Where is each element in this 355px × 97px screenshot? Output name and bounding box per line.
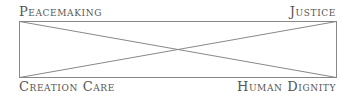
label-human-dignity: Human Dignity	[237, 80, 336, 93]
label-creation-care: Creation Care	[19, 80, 115, 93]
